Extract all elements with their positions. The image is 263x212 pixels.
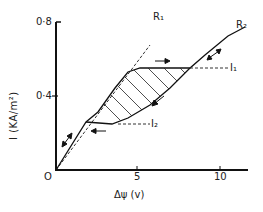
y-tick-label-mid: 0·4 [36,91,52,101]
double-arrow-r2-icon [207,49,221,60]
origin-label: O [44,172,52,182]
x-tick-label-5: 5 [134,172,140,182]
r1-line [56,45,150,170]
x-tick-label-10: 10 [214,172,227,182]
arrow-right-icon [155,59,170,64]
y-axis-label: I (KA/m²) [8,91,19,140]
r2-label: R₂ [236,20,247,30]
i1-label: I₁ [230,63,237,73]
y-tick-label-top: 0·8 [36,17,52,27]
r1-label: R₁ [153,12,164,22]
double-arrow-origin-icon [62,133,72,147]
r2-line [56,27,245,170]
arrow-left-icon [91,129,106,134]
loop-lower-branch [86,68,190,124]
x-axis-label: Δψ (v) [114,190,144,200]
i2-label: I₂ [151,119,158,129]
